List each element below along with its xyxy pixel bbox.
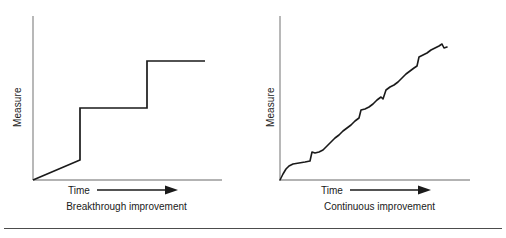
x-axis-label-text: Time bbox=[68, 185, 90, 196]
continuous-plot bbox=[253, 0, 506, 200]
breakthrough-plot bbox=[0, 0, 253, 200]
x-axis-label-group: Time bbox=[68, 181, 179, 199]
x-axis-label-text: Time bbox=[321, 185, 343, 196]
panel-caption: Continuous improvement bbox=[253, 201, 506, 212]
panel-caption: Breakthrough improvement bbox=[0, 201, 253, 212]
bottom-divider bbox=[4, 228, 502, 229]
panels-row: Measure Time Breakthrough improvement bbox=[0, 0, 506, 222]
breakthrough-data-line bbox=[33, 61, 205, 180]
y-axis-label: Measure bbox=[259, 52, 281, 162]
right-arrow-icon bbox=[97, 185, 179, 195]
panel-continuous: Measure Time Continuous improvement bbox=[253, 0, 506, 222]
panel-breakthrough: Measure Time Breakthrough improvement bbox=[0, 0, 253, 222]
right-arrow-icon bbox=[350, 185, 432, 195]
continuous-data-line bbox=[280, 44, 447, 180]
figure-container: Measure Time Breakthrough improvement bbox=[0, 0, 506, 238]
x-axis-label-group: Time bbox=[321, 181, 432, 199]
y-axis-label: Measure bbox=[6, 52, 28, 162]
